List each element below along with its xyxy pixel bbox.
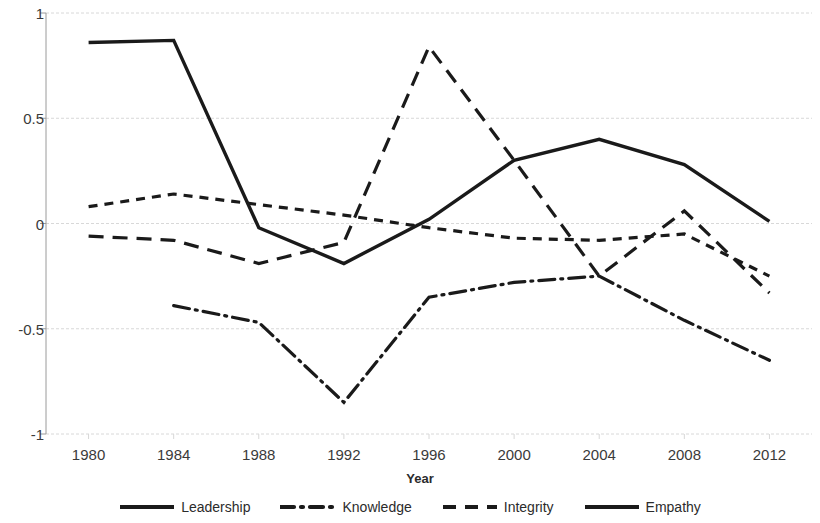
- legend-item-integrity[interactable]: Integrity: [442, 500, 554, 514]
- line-chart: 10.50-0.5-1 1980198419881992199620002004…: [0, 0, 820, 523]
- x-axis-title: Year: [360, 472, 480, 485]
- y-tick-label: -0.5: [0, 322, 44, 337]
- legend-label: Knowledge: [342, 500, 411, 514]
- legend-swatch-icon: [442, 502, 498, 512]
- legend-item-knowledge[interactable]: Knowledge: [280, 500, 411, 514]
- series-line-empathy: [89, 40, 770, 263]
- y-tick-label: 0: [0, 217, 44, 232]
- chart-legend: LeadershipKnowledgeIntegrityEmpathy: [0, 500, 820, 514]
- y-tick-label: -1: [0, 427, 44, 442]
- legend-label: Empathy: [646, 500, 701, 514]
- series-lines: [89, 40, 770, 402]
- axis-lines: [40, 13, 769, 439]
- gridlines: [46, 13, 812, 434]
- plot-area: [0, 0, 820, 523]
- x-tick-label: 2004: [564, 447, 634, 462]
- series-line-integrity: [89, 194, 770, 276]
- x-tick-label: 1992: [309, 447, 379, 462]
- legend-swatch-icon: [280, 502, 336, 512]
- legend-label: Integrity: [504, 500, 554, 514]
- series-line-knowledge: [89, 47, 770, 293]
- legend-item-empathy[interactable]: Empathy: [584, 500, 701, 514]
- x-tick-label: 1988: [224, 447, 294, 462]
- y-tick-label: 1: [0, 6, 44, 21]
- x-tick-label: 2012: [734, 447, 804, 462]
- legend-swatch-icon: [584, 502, 640, 512]
- x-tick-label: 1996: [394, 447, 464, 462]
- x-tick-label: 2008: [649, 447, 719, 462]
- legend-swatch-icon: [119, 502, 175, 512]
- y-tick-label: 0.5: [0, 111, 44, 126]
- legend-item-leadership[interactable]: Leadership: [119, 500, 250, 514]
- x-tick-label: 1984: [139, 447, 209, 462]
- series-line-leadership: [174, 276, 770, 402]
- legend-label: Leadership: [181, 500, 250, 514]
- x-tick-label: 2000: [479, 447, 549, 462]
- x-tick-label: 1980: [54, 447, 124, 462]
